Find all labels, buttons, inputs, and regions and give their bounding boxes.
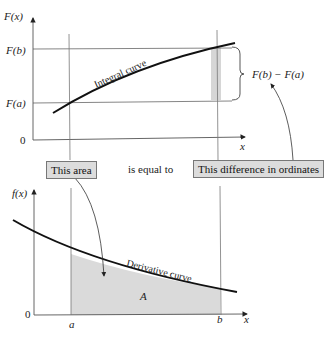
area-label: A bbox=[139, 290, 147, 302]
tick-a: a bbox=[69, 318, 75, 330]
top-x-axis bbox=[33, 137, 245, 140]
top-tick-zero: 0 bbox=[20, 134, 26, 146]
integral-graph bbox=[33, 18, 245, 160]
bottom-tick-zero: 0 bbox=[25, 308, 31, 320]
top-y-axis-label: F(x) bbox=[3, 10, 23, 23]
derivative-graph bbox=[13, 186, 247, 315]
difference-arrow bbox=[271, 84, 293, 160]
tick-b: b bbox=[217, 313, 223, 325]
bottom-x-axis-label: x bbox=[243, 313, 249, 325]
fa-line bbox=[33, 101, 232, 103]
difference-label: F(b) − F(a) bbox=[251, 68, 304, 81]
top-a-line bbox=[69, 34, 70, 160]
is-equal-to-text: is equal to bbox=[128, 163, 173, 175]
this-area-box: This area bbox=[46, 161, 97, 179]
brace bbox=[232, 47, 244, 100]
bottom-y-axis-label: f(x) bbox=[12, 187, 28, 200]
difference-strip bbox=[211, 48, 221, 100]
tick-fa: F(a) bbox=[5, 97, 26, 110]
tick-fb: F(b) bbox=[5, 44, 26, 57]
bottom-b-line bbox=[220, 186, 221, 315]
top-x-axis-label: x bbox=[239, 140, 245, 152]
this-difference-box: This difference in ordinates bbox=[193, 160, 324, 178]
fb-line bbox=[33, 48, 232, 49]
integral-curve-label: Integral curve bbox=[92, 57, 148, 90]
